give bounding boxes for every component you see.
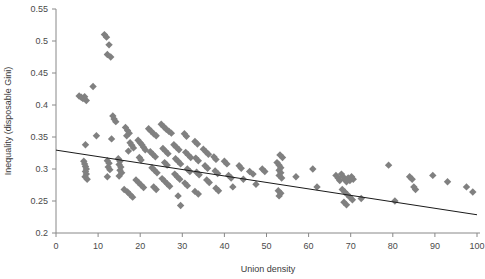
- y-axis-title: Inequality (disposable Gini): [3, 67, 13, 176]
- x-tick-label: 0: [53, 241, 58, 251]
- x-tick-label: 70: [346, 241, 356, 251]
- y-tick-label: 0.4: [35, 100, 48, 110]
- chart-background: [0, 0, 485, 279]
- chart-page: 0.20.250.30.350.40.450.50.55 01020304050…: [0, 0, 485, 279]
- y-tick-label: 0.45: [30, 68, 48, 78]
- y-tick-label: 0.5: [35, 36, 48, 46]
- scatter-chart: 0.20.250.30.350.40.450.50.55 01020304050…: [0, 0, 485, 279]
- x-tick-label: 80: [388, 241, 398, 251]
- x-tick-label: 90: [430, 241, 440, 251]
- y-tick-label: 0.25: [30, 196, 48, 206]
- y-tick-label: 0.35: [30, 132, 48, 142]
- x-tick-label: 60: [304, 241, 314, 251]
- x-axis-title: Union density: [241, 264, 296, 274]
- y-tick-label: 0.3: [35, 164, 48, 174]
- x-tick-label: 40: [219, 241, 229, 251]
- x-tick-label: 10: [93, 241, 103, 251]
- y-tick-label: 0.55: [30, 4, 48, 14]
- x-tick-label: 30: [177, 241, 187, 251]
- y-tick-label: 0.2: [35, 228, 48, 238]
- x-tick-label: 50: [261, 241, 271, 251]
- x-tick-label: 100: [469, 241, 484, 251]
- x-tick-label: 20: [135, 241, 145, 251]
